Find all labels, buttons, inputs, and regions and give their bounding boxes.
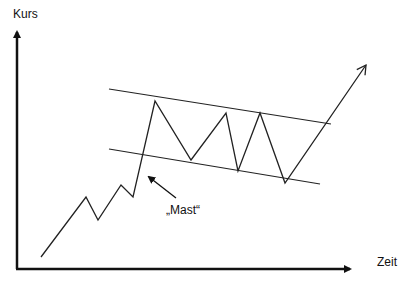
y-axis-label: Kurs [13,7,38,21]
channel-upper-line [109,89,331,124]
mast-pointer-arrow [149,177,176,198]
price-line [41,65,366,257]
mast-annotation-label: „Mast“ [166,203,200,217]
flag-pattern-diagram [0,0,407,281]
x-axis-label: Zeit [377,255,397,269]
